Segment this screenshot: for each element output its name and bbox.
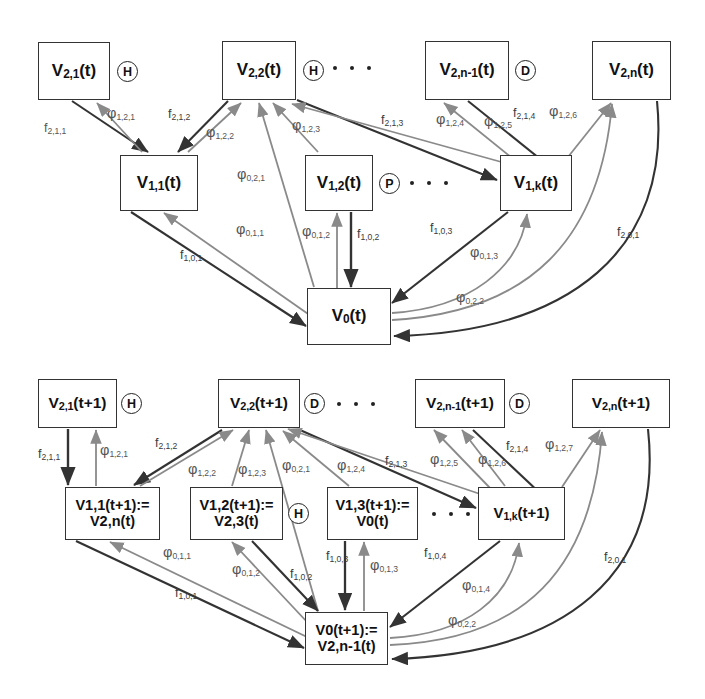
node-label-base: V	[514, 173, 525, 192]
edge-label-sub: 1,2,5	[493, 120, 512, 130]
tag-h-v1-2-t1: H	[288, 503, 309, 524]
ellipsis-bottom-row2	[432, 512, 470, 516]
tag-letter: H	[309, 64, 318, 78]
node-v0-t[interactable]: V0(t)	[307, 288, 391, 345]
node-v1-1-t[interactable]: V1,1(t)	[120, 155, 198, 211]
edge-label-sub: 2,1,3	[388, 459, 407, 469]
node-label-arg: (t+1)	[617, 394, 650, 411]
node-label-base: V	[439, 60, 450, 79]
edge-label-sub: 0,1,2	[241, 568, 260, 578]
node-v1-2-t[interactable]: V1,2(t)	[305, 155, 373, 211]
edge-label-sub: 1,2,2	[197, 468, 216, 478]
tag-letter: H	[294, 507, 303, 521]
edge-label-bphi0222: φ0,2,2	[448, 613, 476, 628]
node-label-sub: 2,n	[620, 66, 637, 80]
node-v1-2-t1[interactable]: V1,2(t+1):= V2,3(t)	[190, 487, 283, 540]
edge-label-phi1222: φ1,2,2	[206, 125, 234, 140]
diagram-canvas: V2,1(t) H V2,2(t) H V2,n-1(t) D V2,n(t) …	[0, 0, 705, 699]
edge-label-sub: 1,0,1	[178, 591, 197, 601]
node-label-sub: 2,n-1	[436, 400, 460, 412]
node-label-line2: V2,n(t)	[88, 514, 137, 530]
edge-label-sub: 1,0,2	[293, 572, 312, 582]
node-v1-k-t1[interactable]: V1,k(t+1)	[478, 487, 565, 540]
node-v2-2-t1[interactable]: V2,2(t+1)	[218, 379, 300, 428]
edge-layer	[0, 0, 705, 699]
edge-label-bf211: f2,1,1	[38, 448, 60, 461]
edge-label-sub: 1,2,6	[487, 458, 506, 468]
node-v2-n-1-t1[interactable]: V2,n-1(t+1)	[415, 379, 505, 428]
edge-label-phi0113: φ0,1,3	[470, 245, 498, 260]
node-label-arg: (t+1)	[517, 504, 549, 521]
edge-label-sub: 1,2,1	[116, 112, 135, 122]
edge-label-sub: 1,2,3	[247, 468, 266, 478]
edge-label-bf201: f2,0,1	[604, 551, 626, 564]
node-v2-1-t[interactable]: V2,1(t)	[38, 42, 110, 100]
edge-label-sub: 0,1,3	[479, 251, 498, 261]
edge-label-f103: f1,0,3	[430, 222, 452, 235]
node-label-sub: 2,1	[63, 67, 79, 81]
node-label-sub: 1,1	[148, 179, 164, 193]
node-v0-t1[interactable]: V0(t+1):= V2,n-1(t)	[305, 612, 388, 665]
node-label-sub: 1,2	[328, 179, 344, 193]
edge-label-phi0112: φ0,1,2	[302, 224, 330, 239]
edge-label-phi0211: φ0,2,1	[237, 167, 265, 182]
edge-label-sub: 0,1,3	[379, 564, 398, 574]
node-label-arg: (t)	[264, 60, 281, 79]
node-v2-2-t[interactable]: V2,2(t)	[222, 41, 296, 100]
node-label-base: V	[52, 61, 63, 80]
edge-bphi0112	[232, 542, 308, 623]
node-v1-k-t[interactable]: V1,k(t)	[500, 155, 572, 211]
node-label-sub: 1,k	[503, 510, 517, 522]
edge-label-bf102: f1,0,2	[290, 568, 312, 581]
node-v2-n-1-t[interactable]: V2,n-1(t)	[425, 41, 509, 100]
tag-p-v1-2-t: P	[379, 173, 400, 194]
edge-label-sub: 1,0,3	[433, 226, 452, 236]
tag-d-v2-2-t1: D	[304, 393, 325, 414]
node-v2-1-t1[interactable]: V2,1(t+1)	[38, 379, 117, 428]
edge-label-bphi0112: φ0,1,2	[232, 562, 260, 577]
node-label-base: V	[332, 306, 343, 325]
node-v1-3-t1[interactable]: V1,3(t+1):= V0(t)	[327, 487, 418, 540]
edge-label-bf213: f2,1,3	[385, 455, 407, 468]
edge-label-sub: 1,0,1	[183, 253, 202, 263]
edge-label-sub: 1,2,5	[439, 458, 458, 468]
edge-label-sub: 0,1,1	[245, 228, 264, 238]
node-label-base: V	[426, 394, 436, 411]
node-label-base: V	[317, 173, 328, 192]
edge-label-sub: 0,1,1	[172, 551, 191, 561]
edge-label-sub: 0,2,2	[457, 619, 476, 629]
node-label-sub: 2,2	[240, 400, 254, 412]
node-label-sub: 2,n-1	[451, 66, 478, 80]
node-label-arg: (t)	[637, 60, 654, 79]
edge-label-f101: f1,0,1	[180, 249, 202, 262]
tag-letter: H	[123, 65, 132, 79]
edge-label-f102: f1,0,2	[357, 228, 379, 241]
node-label-base: V	[49, 394, 59, 411]
edge-f101	[131, 212, 306, 326]
edge-label-bphi0114: φ0,1,4	[462, 578, 490, 593]
node-label-sub: 2,1	[59, 400, 73, 412]
node-v2-n-t[interactable]: V2,n(t)	[592, 41, 671, 100]
tag-letter: H	[127, 397, 136, 411]
edge-label-sub: 2,1,4	[516, 111, 535, 121]
edge-label-sub: 2,1,2	[171, 112, 190, 122]
edge-label-bphi0211: φ0,2,1	[282, 458, 310, 473]
edge-label-bf214: f2,1,4	[506, 440, 528, 453]
edge-label-bphi1223: φ1,2,3	[238, 462, 266, 477]
node-label-base: V	[137, 173, 148, 192]
edge-label-sub: 0,2,2	[465, 296, 484, 306]
edge-label-sub: 1,2,6	[558, 110, 577, 120]
node-v2-n-t1[interactable]: V2,n(t+1)	[572, 379, 670, 428]
edge-label-sub: 0,2,1	[246, 173, 265, 183]
edge-label-f201: f2,0,1	[617, 226, 639, 239]
node-v1-1-t1[interactable]: V1,1(t+1):= V2,n(t)	[65, 487, 160, 540]
edge-label-bphi1227: φ1,2,7	[545, 437, 573, 452]
edge-label-bf104: f1,0,4	[424, 547, 446, 560]
ellipsis-top-row2	[410, 181, 448, 185]
tag-letter: P	[385, 177, 393, 191]
edge-label-sub: 1,2,4	[346, 464, 365, 474]
tag-letter: D	[310, 397, 319, 411]
node-label-arg: (t)	[541, 173, 558, 192]
node-label-arg: (t)	[344, 173, 361, 192]
edge-label-phi0222: φ0,2,2	[456, 290, 484, 305]
